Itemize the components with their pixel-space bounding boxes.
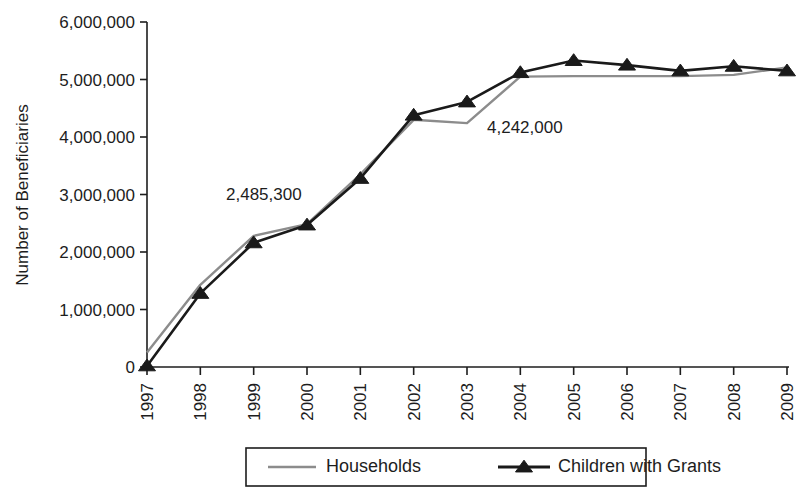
data-point-marker — [725, 59, 742, 71]
x-tick-label: 2008 — [725, 383, 744, 421]
y-axis-title: Number of Beneficiaries — [13, 104, 32, 285]
x-tick-label: 2009 — [778, 383, 797, 421]
legend-item-label: Children with Grants — [558, 456, 721, 476]
x-tick-label: 2006 — [618, 383, 637, 421]
x-tick-label: 1999 — [245, 383, 264, 421]
y-tick-label: 0 — [126, 358, 135, 377]
x-tick-label: 2000 — [298, 383, 317, 421]
x-tick-label: 1997 — [138, 383, 157, 421]
y-axis-ticks: 01,000,0002,000,0003,000,0004,000,0005,0… — [59, 13, 147, 377]
data-annotation: 2,485,300 — [226, 185, 302, 204]
data-point-marker — [565, 54, 582, 66]
series-layer — [139, 54, 796, 371]
data-point-marker — [139, 359, 156, 371]
y-tick-label: 2,000,000 — [59, 243, 135, 262]
data-point-marker — [352, 172, 369, 184]
data-annotation: 4,242,000 — [487, 118, 563, 137]
y-tick-label: 4,000,000 — [59, 128, 135, 147]
x-tick-label: 2003 — [458, 383, 477, 421]
legend-item-label: Households — [326, 456, 421, 476]
x-tick-label: 2001 — [351, 383, 370, 421]
beneficiaries-line-chart: Number of Beneficiaries 01,000,0002,000,… — [0, 0, 803, 497]
x-tick-label: 2007 — [671, 383, 690, 421]
x-tick-label: 2004 — [511, 383, 530, 421]
x-tick-label: 1998 — [191, 383, 210, 421]
y-tick-label: 3,000,000 — [59, 186, 135, 205]
annotation-layer: 2,485,3004,242,000 — [226, 118, 563, 204]
chart-container: Number of Beneficiaries 01,000,0002,000,… — [0, 0, 803, 497]
data-point-marker — [459, 95, 476, 107]
y-tick-label: 1,000,000 — [59, 301, 135, 320]
x-axis-ticks: 1997199819992000200120022003200420052006… — [138, 367, 797, 421]
y-tick-label: 6,000,000 — [59, 13, 135, 32]
series-line-households — [147, 67, 787, 352]
x-tick-label: 2005 — [565, 383, 584, 421]
y-tick-label: 5,000,000 — [59, 71, 135, 90]
x-tick-label: 2002 — [405, 383, 424, 421]
